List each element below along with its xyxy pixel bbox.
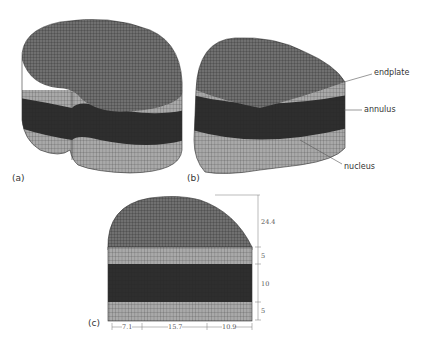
figure-canvas (0, 0, 424, 349)
dim-top-height: 24.4 (261, 218, 275, 226)
nucleus-annotation: nucleus (344, 162, 375, 171)
dim-annulus: 10 (261, 280, 269, 288)
dim-right-width: 10.9 (222, 323, 236, 331)
panel-c-label: (c) (88, 318, 100, 328)
panel-c-mesh (108, 195, 261, 330)
endplate-annotation: endplate (374, 68, 409, 77)
dim-mid-width: 15.7 (168, 323, 182, 331)
panel-a-mesh (20, 19, 185, 175)
annulus-annotation: annulus (364, 105, 396, 114)
dim-endplate-bottom: 5 (261, 307, 265, 315)
dim-left-width: 7.1 (122, 323, 132, 331)
dim-endplate-top: 5 (261, 252, 265, 260)
panel-b-label: (b) (187, 173, 200, 183)
panel-a-label: (a) (12, 173, 25, 183)
panel-b-mesh (192, 38, 372, 180)
